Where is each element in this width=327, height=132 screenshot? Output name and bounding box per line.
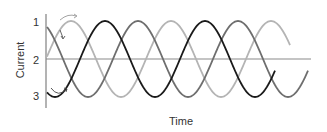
- three-phase-current-chart: 1 2 3 Current Time: [0, 0, 327, 132]
- x-axis-label: Time: [169, 115, 193, 127]
- curved-arrow-icon: [60, 15, 76, 20]
- y-axis-label: Current: [14, 42, 26, 79]
- y-tick-3: 3: [33, 90, 39, 102]
- y-tick-2: 2: [33, 54, 39, 66]
- y-tick-1: 1: [33, 16, 39, 28]
